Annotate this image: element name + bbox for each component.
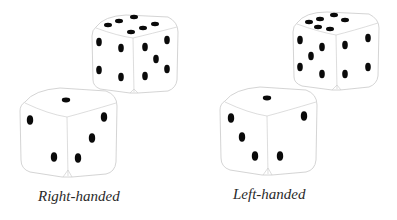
left-handed-caption: Left-handed: [233, 186, 306, 203]
dice-handedness-illustration: [0, 0, 397, 220]
die-top-face-pips: [62, 98, 70, 103]
die-icon: [220, 87, 317, 175]
die-icon: [20, 88, 117, 177]
right-handed-panel: [20, 15, 178, 177]
die-icon: [293, 12, 379, 90]
right-handed-caption: Right-handed: [38, 188, 120, 205]
die-icon: [92, 15, 178, 93]
left-handed-panel: [220, 12, 379, 175]
die-top-face-pips: [263, 96, 271, 101]
